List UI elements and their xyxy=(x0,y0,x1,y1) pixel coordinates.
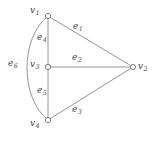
vertex-label-v1: v1 xyxy=(30,6,39,15)
edge-label-e3: e3 xyxy=(72,105,81,114)
edge-e1-v1-v2 xyxy=(48,16,133,67)
vertex-node-v3 xyxy=(45,64,50,69)
vertex-label-v2: v2 xyxy=(138,62,147,71)
vertex-label-v3: v3 xyxy=(30,60,39,69)
edge-e3-v4-v2 xyxy=(48,67,133,120)
vertex-node-v2 xyxy=(130,64,135,69)
vertex-label-v4: v4 xyxy=(30,119,39,128)
edge-label-e5: e5 xyxy=(37,86,46,95)
graph-figure: v1 v2 v3 v4 e1 e2 e3 e4 e5 e6 xyxy=(0,0,155,142)
edge-label-e4: e4 xyxy=(37,33,46,42)
vertex-node-v4 xyxy=(45,117,50,122)
vertex-group xyxy=(45,13,135,122)
vertex-node-v1 xyxy=(45,13,50,18)
edge-label-e2: e2 xyxy=(72,53,81,62)
edge-label-e1: e1 xyxy=(73,22,82,31)
edge-label-e6: e6 xyxy=(8,59,17,68)
